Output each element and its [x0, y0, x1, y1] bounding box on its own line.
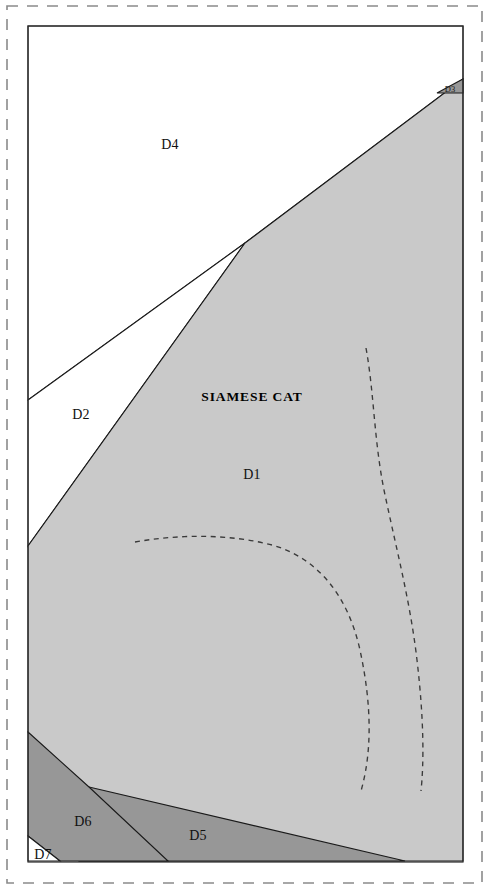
domain-map-figure: SIAMESE CAT D1 D2 D3 D4 D5 D6 D7: [0, 0, 489, 889]
domain-map-svg: SIAMESE CAT D1 D2 D3 D4 D5 D6 D7: [0, 0, 489, 889]
feature-title-siamese-cat: SIAMESE CAT: [201, 389, 303, 404]
domain-label-d6: D6: [74, 814, 92, 829]
domain-label-d5: D5: [189, 828, 207, 843]
domain-label-d3: D3: [445, 84, 455, 94]
domain-label-d4: D4: [161, 137, 179, 152]
domain-label-d2: D2: [72, 407, 90, 422]
domain-label-d7: D7: [34, 847, 52, 862]
domain-label-d1: D1: [243, 467, 261, 482]
